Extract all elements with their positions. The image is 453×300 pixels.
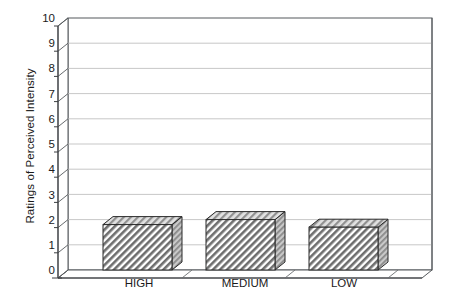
- bar-low[interactable]: [309, 219, 388, 270]
- plot-floor: [58, 270, 432, 278]
- bar-low-front-face: [309, 227, 378, 270]
- bar-high-front-face: [103, 225, 172, 270]
- bar-medium[interactable]: [206, 212, 285, 270]
- plot-area: [0, 0, 453, 300]
- bar-high-top-face: [103, 217, 182, 225]
- bar-low-side-face: [378, 219, 388, 270]
- bar-chart: Ratings of Perceived Intensity 10 9 8 7 …: [0, 0, 453, 300]
- bar-high-side-face: [172, 217, 182, 270]
- bar-high[interactable]: [103, 217, 182, 270]
- bar-medium-front-face: [206, 220, 275, 270]
- bar-low-top-face: [309, 219, 388, 227]
- bar-medium-top-face: [206, 212, 285, 220]
- bar-medium-side-face: [275, 212, 285, 270]
